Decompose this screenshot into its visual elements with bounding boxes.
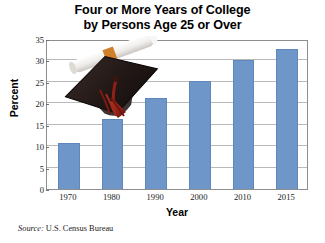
- x-axis-tick-label: 1970: [48, 192, 88, 202]
- y-axis-tick-mark: [46, 147, 49, 148]
- x-axis-tick-label: 1990: [135, 192, 175, 202]
- x-axis-tick-label: 1980: [92, 192, 132, 202]
- bar-chart-figure: Four or More Years of College by Persons…: [0, 0, 325, 243]
- x-axis-label: Year: [46, 206, 308, 218]
- x-axis-tick-label: 2015: [266, 192, 306, 202]
- chart-title-line-2: by Persons Age 25 or Over: [0, 18, 325, 33]
- y-axis-tick-mark: [46, 190, 49, 191]
- chart-title: Four or More Years of College by Persons…: [0, 3, 325, 32]
- source-prefix: Source:: [18, 224, 44, 233]
- bar-2010: [233, 60, 255, 189]
- y-axis-tick-label: 20: [18, 99, 44, 109]
- x-axis-tick-label: 2000: [179, 192, 219, 202]
- y-axis-tick-mark: [46, 169, 49, 170]
- bar-1990: [145, 98, 167, 189]
- y-axis-tick-labels: 05101520253035: [12, 40, 44, 190]
- source-body: U.S. Census Bureau: [44, 224, 114, 233]
- y-axis-tick-label: 30: [18, 56, 44, 66]
- x-axis-tick-labels: 197019801990200020102015: [46, 192, 308, 206]
- y-axis-tick-label: 10: [18, 142, 44, 152]
- y-axis-tick-mark: [46, 83, 49, 84]
- bar-2015: [276, 49, 298, 189]
- bar-2000: [189, 81, 211, 189]
- y-axis-tick-mark: [46, 126, 49, 127]
- y-axis-tick-label: 5: [18, 164, 44, 174]
- plot-area: [46, 40, 308, 190]
- y-axis-tick-mark: [46, 104, 49, 105]
- chart-title-line-1: Four or More Years of College: [0, 3, 325, 18]
- bar-1980: [102, 119, 124, 189]
- y-axis-tick-label: 25: [18, 78, 44, 88]
- bars-layer: [47, 41, 307, 189]
- y-axis-tick-label: 0: [18, 185, 44, 195]
- y-axis-tick-mark: [46, 40, 49, 41]
- y-axis-tick-label: 15: [18, 121, 44, 131]
- y-axis-tick-mark: [46, 61, 49, 62]
- source-note: Source: U.S. Census Bureau: [18, 224, 113, 233]
- bar-1970: [58, 143, 80, 189]
- y-axis-tick-label: 35: [18, 35, 44, 45]
- x-axis-tick-label: 2010: [223, 192, 263, 202]
